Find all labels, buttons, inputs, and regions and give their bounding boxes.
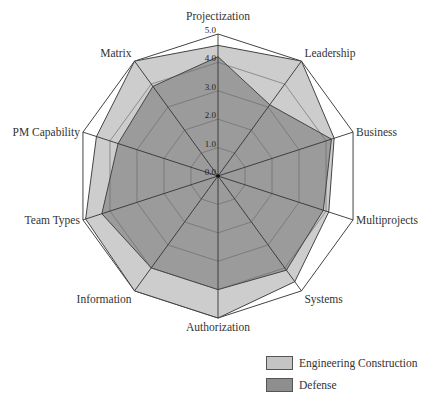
tick-label: 4.0: [205, 53, 217, 63]
chart-legend: Engineering Construction Defense: [266, 352, 418, 396]
axis-label-team-types: Team Types: [25, 214, 81, 227]
axis-label-business: Business: [356, 126, 397, 138]
axis-label-matrix: Matrix: [100, 47, 132, 59]
axis-label-pm-capability: PM Capability: [13, 126, 81, 139]
radar-chart: 0.01.02.03.04.05.0 ProjectizationLeaders…: [0, 0, 433, 402]
legend-label: Defense: [299, 379, 337, 391]
axis-label-multiprojects: Multiprojects: [356, 214, 418, 227]
axis-label-information: Information: [77, 293, 132, 305]
tick-label: 3.0: [205, 82, 217, 92]
axis-label-authorization: Authorization: [186, 321, 250, 333]
axis-label-leadership: Leadership: [304, 47, 355, 60]
tick-label: 1.0: [205, 139, 217, 149]
legend-label: Engineering Construction: [299, 357, 418, 369]
legend-item-engineering-construction: Engineering Construction: [266, 352, 418, 374]
legend-swatch-defense: [266, 378, 293, 392]
tick-label: 5.0: [205, 25, 217, 35]
tick-label: 2.0: [205, 110, 217, 120]
axis-label-systems: Systems: [304, 293, 343, 306]
tick-label: 0.0: [205, 167, 217, 177]
legend-item-defense: Defense: [266, 374, 418, 396]
legend-swatch-engineering: [266, 356, 293, 370]
axis-label-projectization: Projectization: [186, 10, 250, 23]
